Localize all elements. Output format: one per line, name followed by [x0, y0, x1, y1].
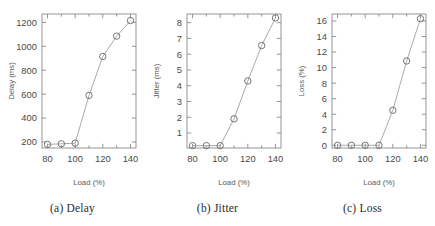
y-axis-title: Jitter (ms) — [152, 63, 161, 98]
y-tick-label: 200 — [21, 136, 37, 147]
x-tick-label: 100 — [357, 153, 373, 164]
y-tick-label: 8 — [177, 17, 182, 28]
y-tick-label: 6 — [177, 49, 182, 60]
x-tick-label: 120 — [95, 153, 111, 164]
x-tick-label: 140 — [268, 153, 284, 164]
panel-caption-loss: (c) Loss — [290, 202, 435, 214]
panel-caption-delay: (a) Delay — [0, 202, 145, 214]
y-tick-label: 4 — [322, 109, 327, 120]
y-tick-label: 1000 — [16, 41, 37, 52]
chart-panel-loss: 024681012141680100120140Load (%)Loss (%)… — [290, 0, 435, 226]
y-tick-label: 1 — [177, 127, 182, 138]
y-tick-label: 400 — [21, 112, 37, 123]
data-series-line — [338, 19, 421, 146]
y-axis-title: Loss (%) — [297, 65, 306, 96]
y-tick-label: 7 — [177, 33, 182, 44]
y-tick-label: 8 — [322, 78, 327, 89]
y-tick-label: 5 — [177, 64, 182, 75]
plot-group-2: 024681012141680100120140Load (%)Loss (%) — [297, 14, 428, 187]
y-tick-label: 2 — [177, 112, 182, 123]
y-tick-label: 800 — [21, 65, 37, 76]
y-tick-label: 12 — [317, 46, 327, 57]
plot-jitter: 1234567880100120140Load (%)Jitter (ms) — [145, 0, 290, 200]
x-axis-title: Load (%) — [73, 178, 105, 187]
plot-group-0: 2004006008001000120080100120140Load (%)D… — [7, 14, 138, 187]
figure-row: 2004006008001000120080100120140Load (%)D… — [0, 0, 435, 226]
y-tick-label: 2 — [322, 124, 327, 135]
y-tick-label: 3 — [177, 96, 182, 107]
y-axis-title: Delay (ms) — [7, 62, 16, 100]
y-tick-label: 6 — [322, 93, 327, 104]
y-tick-label: 16 — [317, 15, 327, 26]
y-tick-label: 4 — [177, 80, 182, 91]
x-tick-label: 100 — [212, 153, 228, 164]
y-tick-label: 0 — [322, 140, 327, 151]
x-axis-title: Load (%) — [218, 178, 250, 187]
x-tick-label: 80 — [187, 153, 197, 164]
x-tick-label: 120 — [240, 153, 256, 164]
x-tick-label: 140 — [123, 153, 139, 164]
y-tick-label: 1200 — [16, 17, 37, 28]
y-tick-label: 10 — [317, 62, 327, 73]
x-axis-title: Load (%) — [363, 178, 395, 187]
plot-group-1: 1234567880100120140Load (%)Jitter (ms) — [152, 14, 283, 187]
x-tick-label: 80 — [42, 153, 52, 164]
chart-panel-jitter: 1234567880100120140Load (%)Jitter (ms) (… — [145, 0, 290, 226]
data-series-line — [193, 18, 276, 146]
x-tick-label: 80 — [332, 153, 342, 164]
plot-delay: 2004006008001000120080100120140Load (%)D… — [0, 0, 145, 200]
y-tick-label: 14 — [317, 31, 327, 42]
plot-loss: 024681012141680100120140Load (%)Loss (%) — [290, 0, 435, 200]
y-tick-label: 600 — [21, 89, 37, 100]
plot-frame — [187, 14, 281, 148]
data-point-marker — [127, 17, 133, 23]
x-tick-label: 100 — [67, 153, 83, 164]
x-tick-label: 120 — [385, 153, 401, 164]
chart-panel-delay: 2004006008001000120080100120140Load (%)D… — [0, 0, 145, 226]
plot-frame — [332, 14, 426, 148]
plot-frame — [42, 14, 136, 148]
x-tick-label: 140 — [413, 153, 429, 164]
panel-caption-jitter: (b) Jitter — [145, 202, 290, 214]
